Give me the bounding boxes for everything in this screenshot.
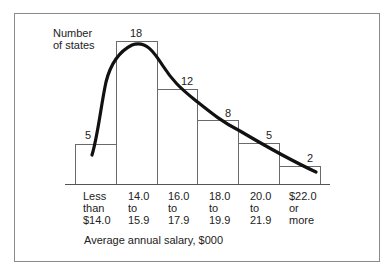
y-axis-label-line1: Number (53, 27, 95, 39)
bar-less-than-14 (76, 145, 117, 185)
bar-22-or-more (280, 167, 321, 185)
value-label: 8 (218, 107, 238, 119)
value-label: 18 (126, 27, 146, 39)
y-axis-label-line2: of states (53, 39, 95, 51)
value-label: 5 (78, 129, 98, 141)
value-label: 2 (300, 152, 320, 164)
category-label: 20.0to21.9 (250, 190, 271, 226)
value-label: 12 (177, 75, 197, 87)
category-label: 18.0to19.9 (209, 190, 230, 226)
bar-14-to-15-9 (117, 42, 158, 185)
bar-16-to-17-9 (158, 90, 198, 185)
bar-18-to-19-9 (198, 121, 239, 185)
category-label: $22.0ormore (289, 190, 317, 226)
category-label: 16.0to17.9 (168, 190, 189, 226)
category-label: 14.0to15.9 (128, 190, 149, 226)
value-label: 5 (259, 129, 279, 141)
category-label: Lessthan$14.0 (83, 190, 111, 226)
y-axis-label: Number of states (53, 27, 95, 51)
x-axis-title: Average annual salary, $000 (84, 234, 223, 246)
